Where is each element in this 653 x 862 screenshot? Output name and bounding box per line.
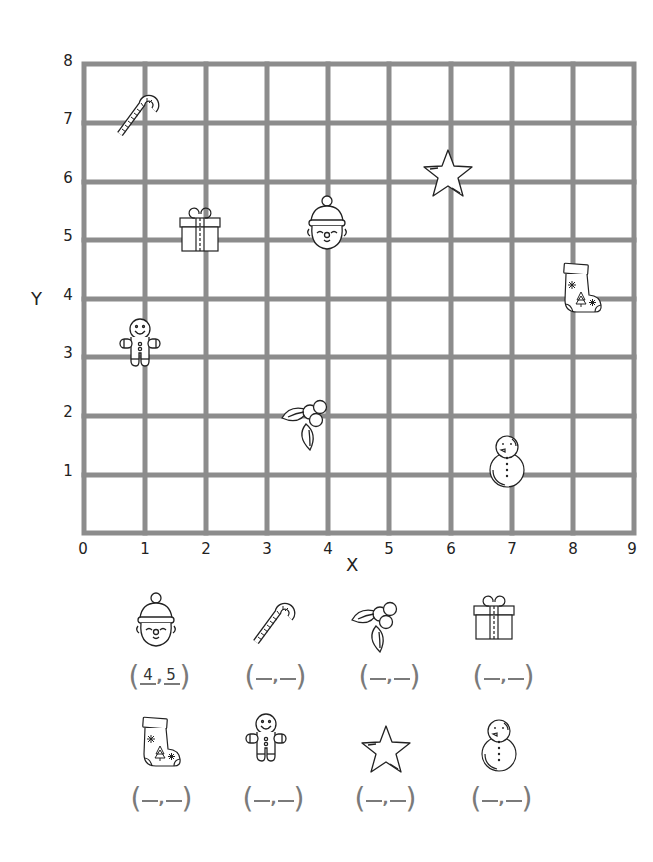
answer-gift-x[interactable] xyxy=(484,678,500,680)
answer-gingerbread-x[interactable] xyxy=(254,800,270,802)
answer-gift: (,) xyxy=(464,660,544,693)
holly-icon xyxy=(278,396,328,456)
answer-candy-cane-x[interactable] xyxy=(256,678,272,680)
answer-star-y[interactable] xyxy=(390,800,406,802)
gingerbread-man-icon xyxy=(116,317,166,377)
answer-snowman-icon xyxy=(475,714,525,774)
y-tick-3: 3 xyxy=(58,344,78,362)
answer-star: (,) xyxy=(346,782,426,815)
answer-stocking: (,) xyxy=(122,782,202,815)
y-tick-4: 4 xyxy=(58,286,78,304)
answer-gingerbread-man-icon xyxy=(242,712,292,772)
x-tick-2: 2 xyxy=(196,540,216,558)
x-tick-4: 4 xyxy=(318,540,338,558)
answer-holly-icon xyxy=(348,598,398,658)
answer-santa-x[interactable]: 4 xyxy=(140,667,156,685)
x-tick-8: 8 xyxy=(563,540,583,558)
answer-star-x[interactable] xyxy=(366,800,382,802)
y-tick-1: 1 xyxy=(58,462,78,480)
answer-holly-y[interactable] xyxy=(394,678,410,680)
answer-gingerbread-y[interactable] xyxy=(278,800,294,802)
answer-candy-cane-icon xyxy=(250,598,300,658)
x-tick-1: 1 xyxy=(135,540,155,558)
x-tick-6: 6 xyxy=(441,540,461,558)
x-tick-9: 9 xyxy=(622,540,642,558)
answer-holly-x[interactable] xyxy=(370,678,386,680)
y-axis-label: Y xyxy=(31,288,42,309)
answer-holly: (,) xyxy=(350,660,430,693)
stocking-icon xyxy=(555,262,605,322)
answer-stocking-y[interactable] xyxy=(166,800,182,802)
answer-santa: (4,5) xyxy=(120,660,200,693)
y-tick-6: 6 xyxy=(58,169,78,187)
answer-star-icon xyxy=(356,722,416,782)
answer-gift-y[interactable] xyxy=(508,678,524,680)
y-tick-5: 5 xyxy=(58,227,78,245)
answer-snowman: (,) xyxy=(462,782,542,815)
gift-icon xyxy=(176,204,226,264)
y-tick-7: 7 xyxy=(58,110,78,128)
x-tick-0: 0 xyxy=(73,540,93,558)
answer-stocking-x[interactable] xyxy=(142,800,158,802)
answer-snowman-x[interactable] xyxy=(482,800,498,802)
answer-snowman-y[interactable] xyxy=(506,800,522,802)
answer-gingerbread: (,) xyxy=(234,782,314,815)
star-icon xyxy=(418,146,478,206)
answer-candy-cane: (,) xyxy=(236,660,316,693)
x-tick-3: 3 xyxy=(257,540,277,558)
snowman-icon xyxy=(483,430,533,490)
answer-candy-cane-y[interactable] xyxy=(280,678,296,680)
x-axis-label: X xyxy=(346,554,358,575)
x-tick-5: 5 xyxy=(379,540,399,558)
y-tick-2: 2 xyxy=(58,403,78,421)
answer-santa-y[interactable]: 5 xyxy=(164,667,180,685)
x-tick-7: 7 xyxy=(502,540,522,558)
answer-santa-icon xyxy=(132,592,182,652)
santa-icon xyxy=(303,195,353,255)
candy-cane-icon xyxy=(114,90,164,150)
answer-stocking-icon xyxy=(134,716,184,776)
answer-gift-icon xyxy=(470,592,520,652)
y-tick-8: 8 xyxy=(58,52,78,70)
